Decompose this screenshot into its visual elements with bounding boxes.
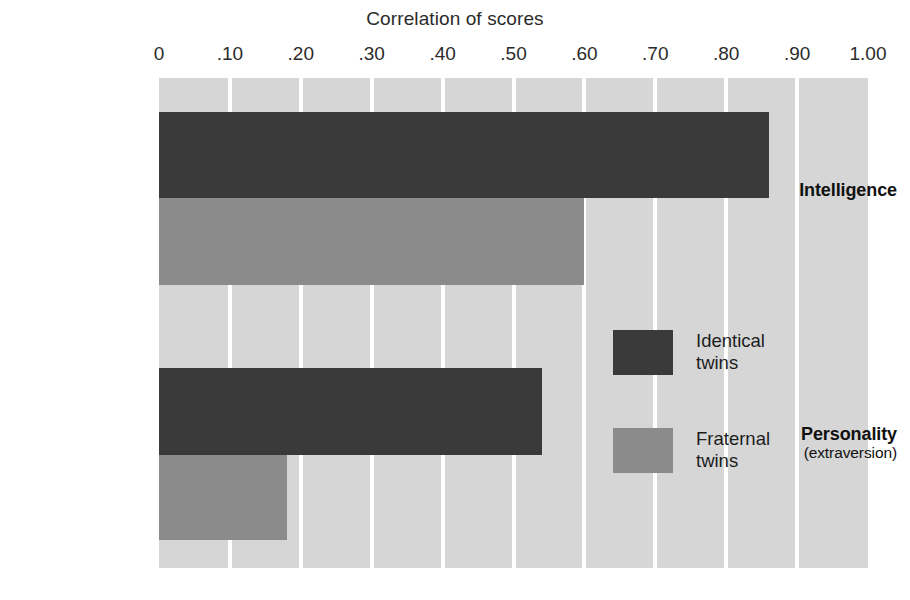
bar-personality-identical xyxy=(159,368,542,455)
x-tick-label-50: .50 xyxy=(500,43,526,65)
category-label-intelligence: Intelligence xyxy=(758,180,910,200)
legend-item-fraternal-twins: Fraternal twins xyxy=(613,428,770,473)
category-label-intelligence-main: Intelligence xyxy=(758,180,897,200)
category-label-personality-main: Personality xyxy=(758,424,897,444)
x-tick-label-30: .30 xyxy=(358,43,384,65)
x-tick-label-100: 1.00 xyxy=(850,43,887,65)
category-label-personality: Personality (extraversion) xyxy=(758,424,910,462)
x-tick-label-70: .70 xyxy=(642,43,668,65)
chart-title: Correlation of scores xyxy=(0,8,910,30)
category-label-personality-sub: (extraversion) xyxy=(758,444,897,461)
legend-swatch-fraternal-twins xyxy=(613,428,673,473)
correlation-of-scores-chart: Correlation of scores 0 .10 .20 .30 .40 … xyxy=(0,0,910,600)
plot-area: Identical twins Fraternal twins xyxy=(159,78,868,568)
x-axis-tick-labels: 0 .10 .20 .30 .40 .50 .60 .70 .80 .90 1.… xyxy=(159,43,868,69)
legend-label-identical-twins: Identical twins xyxy=(696,330,765,374)
x-tick-label-80: .80 xyxy=(713,43,739,65)
legend-swatch-identical-twins xyxy=(613,330,673,375)
x-tick-label-90: .90 xyxy=(784,43,810,65)
x-tick-label-40: .40 xyxy=(429,43,455,65)
x-tick-label-10: .10 xyxy=(217,43,243,65)
bar-intelligence-identical xyxy=(159,112,769,198)
gridline-90 xyxy=(795,78,799,568)
x-tick-label-20: .20 xyxy=(288,43,314,65)
x-tick-label-0: 0 xyxy=(154,43,165,65)
legend-item-identical-twins: Identical twins xyxy=(613,330,765,375)
bar-personality-fraternal xyxy=(159,455,287,540)
x-tick-label-60: .60 xyxy=(571,43,597,65)
bar-intelligence-fraternal xyxy=(159,198,584,285)
